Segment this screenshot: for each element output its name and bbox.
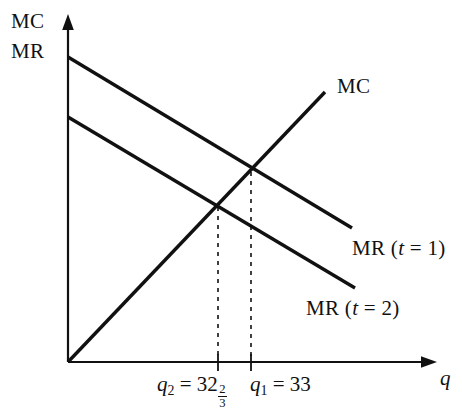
mc-curve-label: MC: [337, 76, 370, 97]
vertical-axis-arrowhead: [62, 14, 74, 30]
q2-tick-label: q2 = 3223: [157, 374, 227, 408]
mr-t1-curve-label: MR (t = 1): [352, 238, 446, 259]
q1-value: 33: [290, 372, 311, 396]
mr-t2-label-suffix: = 2): [358, 296, 399, 320]
horizontal-axis-arrowhead: [421, 356, 437, 368]
q1-variable-letter: q: [250, 372, 261, 396]
mr-t1-label-suffix: = 1): [404, 236, 445, 260]
mc-mr-figure: MC MR MC MR (t = 1) MR (t = 2) q2 = 3223…: [0, 0, 462, 412]
mr-t2-label-prefix: MR (: [306, 296, 352, 320]
q1-equals: =: [267, 372, 289, 396]
q1-variable: q1: [250, 372, 267, 396]
vertical-axis-label-mr: MR: [11, 41, 44, 62]
mr-t2-curve-label: MR (t = 2): [306, 298, 400, 319]
q2-fraction: 23: [218, 383, 226, 410]
q2-variable: q2: [157, 372, 174, 396]
q2-fraction-denominator: 3: [218, 396, 226, 410]
q2-variable-subscript: 2: [168, 383, 175, 398]
horizontal-axis-label-q: q: [440, 368, 451, 389]
mr-t1-label-prefix: MR (: [352, 236, 398, 260]
q2-fraction-numerator: 2: [218, 383, 226, 396]
q1-tick-label: q1 = 33: [250, 374, 311, 395]
horizontal-axis: [68, 356, 437, 368]
chart-canvas: [0, 0, 462, 412]
q2-equals: =: [174, 372, 196, 396]
vertical-axis: [62, 14, 74, 362]
vertical-axis-label-mc: MC: [11, 11, 44, 32]
q2-whole-part: 32: [197, 372, 218, 396]
q1-variable-subscript: 1: [261, 383, 268, 398]
q2-value: 3223: [197, 374, 227, 408]
q2-variable-letter: q: [157, 372, 168, 396]
